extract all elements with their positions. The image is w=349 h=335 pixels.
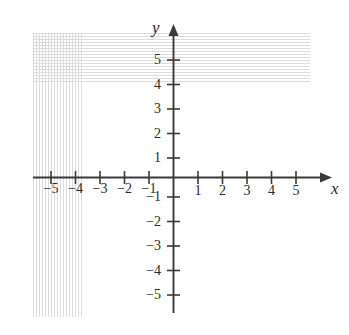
x-axis-label: x bbox=[331, 180, 339, 197]
y-tick-label: 1 bbox=[129, 151, 161, 165]
axes-group bbox=[0, 0, 349, 335]
y-tick-label: 4 bbox=[129, 78, 161, 92]
coordinate-plane-figure: y x −5 −4 −3 −2 −1 1 2 3 4 5 5 4 3 2 1 −… bbox=[0, 0, 349, 335]
y-tick-label: −4 bbox=[129, 264, 161, 278]
y-tick-label: −2 bbox=[129, 215, 161, 229]
y-tick-label: −5 bbox=[129, 288, 161, 302]
y-tick-label: 2 bbox=[129, 127, 161, 141]
y-tick-label: 5 bbox=[129, 53, 161, 67]
x-tick-label: 5 bbox=[282, 184, 310, 198]
y-tick-label: 3 bbox=[129, 102, 161, 116]
y-axis-arrow-icon bbox=[169, 24, 179, 36]
y-tick-label: −3 bbox=[129, 239, 161, 253]
y-tick-label: −1 bbox=[129, 190, 161, 204]
y-axis-label: y bbox=[152, 19, 160, 36]
